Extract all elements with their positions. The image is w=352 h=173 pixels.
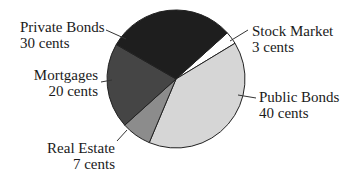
- label-mortgages: Mortgages 20 cents: [34, 67, 98, 99]
- label-stock-market: Stock Market 3 cents: [252, 23, 333, 55]
- label-mortgages-name: Mortgages: [34, 67, 98, 83]
- label-stock-market-name: Stock Market: [252, 23, 333, 39]
- label-public-bonds-value: 40 cents: [259, 105, 339, 121]
- leader-line-real-estate: [117, 130, 127, 141]
- label-mortgages-value: 20 cents: [34, 83, 98, 99]
- label-public-bonds-name: Public Bonds: [259, 89, 339, 105]
- label-real-estate: Real Estate 7 cents: [47, 140, 115, 172]
- label-private-bonds: Private Bonds 30 cents: [20, 19, 105, 51]
- label-real-estate-value: 7 cents: [47, 156, 115, 172]
- label-real-estate-name: Real Estate: [47, 140, 115, 156]
- pie-slices: [107, 10, 245, 148]
- label-public-bonds: Public Bonds 40 cents: [259, 89, 339, 121]
- label-private-bonds-name: Private Bonds: [20, 19, 105, 35]
- label-private-bonds-value: 30 cents: [20, 35, 105, 51]
- label-stock-market-value: 3 cents: [252, 39, 333, 55]
- leader-line-stock-market: [230, 30, 248, 41]
